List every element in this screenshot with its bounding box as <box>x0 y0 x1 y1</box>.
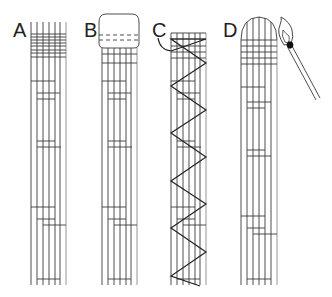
panel-a-strands <box>31 22 66 285</box>
panel-b-crossbars <box>102 54 137 279</box>
diagram-figure: A B C D <box>0 0 332 297</box>
panel-d-strands <box>241 17 277 285</box>
panel-a-crossbars <box>31 81 66 279</box>
panel-c-strands <box>171 33 206 285</box>
match-icon <box>279 17 320 100</box>
panel-b-cap <box>99 14 139 48</box>
panel-b-strands <box>102 48 137 285</box>
panel-a-wrap-binding <box>31 34 66 57</box>
panel-c-zigzag-thread <box>158 38 206 286</box>
diagram-drawing <box>0 0 332 297</box>
panel-c-crossbars <box>171 33 206 279</box>
